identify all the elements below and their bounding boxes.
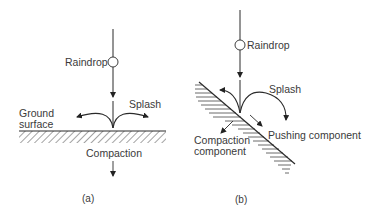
- splash-label-a: Splash: [129, 98, 161, 110]
- splash-right-arrow-b: [240, 92, 286, 120]
- compaction-component-arrow: [221, 121, 233, 133]
- raindrop-impact-diagram: Raindrop Splash Ground surface Compactio…: [0, 0, 382, 218]
- caption-a: (a): [82, 193, 94, 204]
- splash-left-arrow-b: [220, 90, 240, 113]
- splash-right-arrow-a: [113, 113, 148, 128]
- raindrop-icon-a: [108, 57, 118, 67]
- caption-b: (b): [235, 194, 247, 205]
- panel-b: Raindrop Splash Pushing component Compac…: [194, 10, 361, 205]
- ground-label-line2: surface: [19, 118, 54, 130]
- raindrop-icon-b: [235, 40, 245, 50]
- compaction-label-a: Compaction: [86, 147, 142, 159]
- raindrop-label-a: Raindrop: [65, 56, 108, 68]
- panel-a: Raindrop Splash Ground surface Compactio…: [19, 29, 166, 204]
- pushing-component-arrow: [250, 115, 262, 126]
- ground-hatch-a: [19, 131, 166, 143]
- pushing-component-label: Pushing component: [268, 129, 361, 141]
- splash-left-arrow-a: [77, 113, 113, 128]
- compaction-component-label-line2: component: [194, 145, 246, 157]
- splash-label-b: Splash: [269, 83, 301, 95]
- raindrop-label-b: Raindrop: [247, 39, 290, 51]
